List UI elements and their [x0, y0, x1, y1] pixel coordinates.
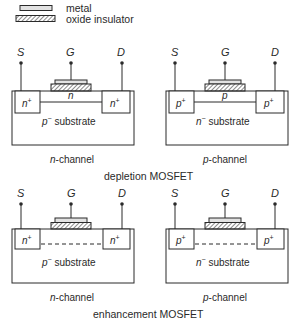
substrate-label: n− substrate: [196, 115, 250, 127]
gate-oxide: [205, 223, 245, 230]
depletion-p-channel-device: S G D p+ p+ p n− substrate p-channel: [166, 46, 288, 165]
channel-label: n: [68, 90, 74, 101]
oxide-swatch: [16, 16, 55, 22]
metal-swatch: [20, 6, 52, 11]
device-caption: p-channel: [202, 292, 247, 303]
depletion-n-channel-device: S G D n+ n+ n p− substrate n-channel: [12, 46, 134, 165]
source-label: S: [17, 46, 25, 58]
device-caption: n-channel: [50, 154, 94, 165]
enhancement-title: enhancement MOSFET: [93, 308, 204, 320]
drain-label: D: [271, 187, 279, 199]
substrate-label: p− substrate: [41, 115, 96, 127]
gate-metal: [55, 218, 87, 223]
legend: metal oxide insulator: [16, 2, 134, 25]
gate-metal: [209, 218, 241, 223]
substrate-label: n− substrate: [196, 256, 250, 268]
gate-label: G: [66, 46, 75, 58]
source-label: S: [171, 187, 179, 199]
drain-label: D: [117, 46, 125, 58]
gate-label: G: [221, 187, 230, 199]
gate-metal: [209, 80, 241, 84]
legend-oxide-label: oxide insulator: [66, 13, 134, 25]
depletion-title: depletion MOSFET: [104, 170, 194, 182]
device-caption: p-channel: [202, 154, 247, 165]
drain-label: D: [271, 46, 279, 58]
gate-label: G: [221, 46, 230, 58]
gate-label: G: [67, 187, 76, 199]
gate-metal: [55, 80, 87, 84]
channel-label: p: [221, 90, 228, 101]
enhancement-n-channel-device: S G D n+ n+ p− substrate n-channel: [12, 187, 134, 303]
substrate-label: p− substrate: [41, 256, 96, 268]
gate-oxide: [51, 223, 91, 230]
mosfet-diagram: metal oxide insulator S G D n+ n+ n p− s…: [0, 0, 299, 321]
drain-label: D: [118, 187, 126, 199]
device-caption: n-channel: [50, 292, 94, 303]
source-label: S: [171, 46, 179, 58]
source-label: S: [17, 187, 25, 199]
enhancement-p-channel-device: S G D p+ p+ n− substrate p-channel: [166, 187, 288, 303]
